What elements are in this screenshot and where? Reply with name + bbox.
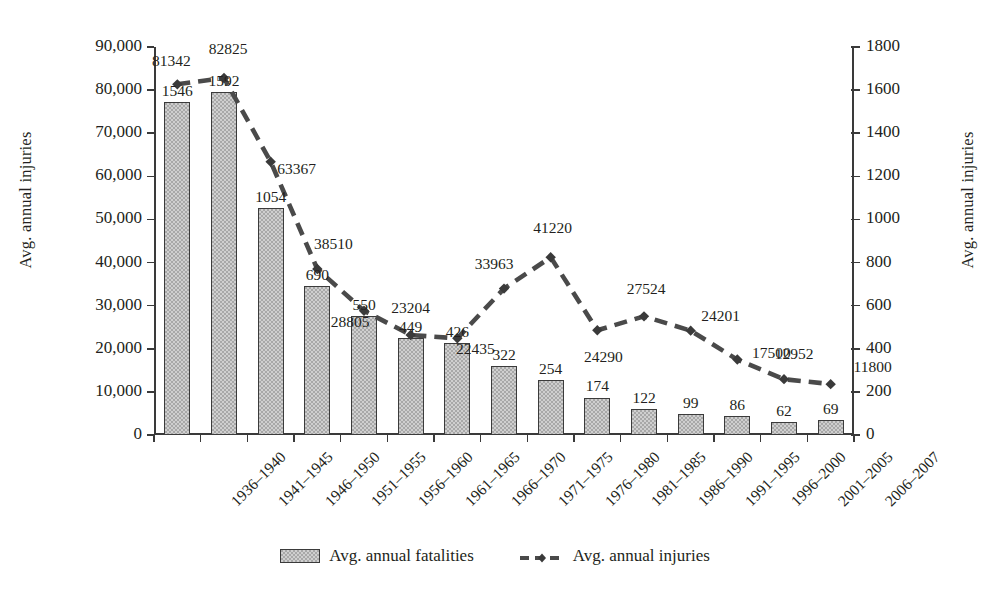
y-axis-left-tick-label: 60,000 bbox=[0, 165, 142, 185]
line-marker-icon bbox=[592, 325, 602, 335]
bar-value-label: 69 bbox=[823, 400, 839, 418]
x-axis-tick-mark bbox=[293, 435, 295, 442]
legend-line-swatch-icon bbox=[520, 550, 564, 562]
line-value-label: 63367 bbox=[277, 160, 316, 178]
line-value-label: 82825 bbox=[209, 40, 248, 58]
bar-value-label: 62 bbox=[776, 402, 792, 420]
bar-value-label: 550 bbox=[352, 296, 375, 314]
y-axis-left-tick-label: 40,000 bbox=[0, 252, 142, 272]
bar-value-label: 1546 bbox=[162, 82, 193, 100]
y-axis-left-tick-label: 90,000 bbox=[0, 36, 142, 56]
y-axis-left-tick-mark bbox=[147, 262, 154, 264]
line-value-label: 24290 bbox=[584, 348, 623, 366]
line-marker-icon bbox=[825, 379, 835, 389]
x-axis-tick-mark bbox=[853, 435, 855, 442]
legend-item-fatalities: Avg. annual fatalities bbox=[280, 546, 474, 566]
chart-figure: Avg. annual injuries Avg. annual injurie… bbox=[0, 0, 990, 591]
x-axis-tick-mark bbox=[620, 435, 622, 442]
line-value-label: 22435 bbox=[456, 340, 495, 358]
x-axis-tick-mark bbox=[153, 435, 155, 442]
y-axis-right-tick-label: 1000 bbox=[866, 208, 900, 228]
bar-value-label: 122 bbox=[632, 389, 655, 407]
y-axis-right-tick-label: 400 bbox=[866, 338, 892, 358]
y-axis-right-tick-label: 800 bbox=[866, 252, 892, 272]
legend-label-fatalities: Avg. annual fatalities bbox=[329, 546, 474, 566]
y-axis-left-tick-mark bbox=[147, 132, 154, 134]
legend-bar-swatch-icon bbox=[280, 549, 320, 563]
bar-value-label: 690 bbox=[306, 266, 329, 284]
y-axis-right-tick-label: 1800 bbox=[866, 36, 900, 56]
y-axis-left-tick-label: 10,000 bbox=[0, 381, 142, 401]
y-axis-right-tick-label: 1400 bbox=[866, 122, 900, 142]
line-value-label: 38510 bbox=[314, 235, 353, 253]
line-value-label: 11800 bbox=[854, 358, 892, 376]
line-value-label: 41220 bbox=[533, 219, 572, 237]
bar-value-label: 254 bbox=[539, 360, 562, 378]
y-axis-left-tick-mark bbox=[147, 391, 154, 393]
y-axis-left-tick-label: 30,000 bbox=[0, 295, 142, 315]
y-axis-right-tick-label: 1600 bbox=[866, 79, 900, 99]
x-axis-tick-mark bbox=[340, 435, 342, 442]
line-value-label: 23204 bbox=[391, 299, 430, 317]
bar-value-label: 322 bbox=[492, 346, 515, 364]
y-axis-right-tick-label: 0 bbox=[866, 424, 875, 444]
y-axis-left-tick-mark bbox=[147, 176, 154, 178]
line-value-label: 27524 bbox=[627, 280, 666, 298]
y-axis-left-tick-mark bbox=[147, 46, 154, 48]
x-axis-tick-mark bbox=[247, 435, 249, 442]
y-axis-right-tick-label: 1200 bbox=[866, 165, 900, 185]
line-series bbox=[154, 47, 854, 435]
bar-value-label: 426 bbox=[446, 323, 469, 341]
y-axis-left-tick-mark bbox=[147, 219, 154, 221]
bar-value-label: 86 bbox=[730, 396, 746, 414]
x-axis-tick-mark bbox=[200, 435, 202, 442]
bar-value-label: 99 bbox=[683, 394, 699, 412]
line-value-label: 12952 bbox=[775, 345, 814, 363]
y-axis-left-tick-label: 0 bbox=[0, 424, 142, 444]
y-axis-left-tick-label: 50,000 bbox=[0, 208, 142, 228]
y-axis-right-tick-label: 600 bbox=[866, 295, 892, 315]
line-value-label: 28805 bbox=[331, 313, 370, 331]
y-axis-left-tick-label: 80,000 bbox=[0, 79, 142, 99]
line-value-label: 81342 bbox=[152, 52, 191, 70]
x-axis-tick-mark bbox=[807, 435, 809, 442]
legend-label-injuries: Avg. annual injuries bbox=[573, 546, 710, 566]
y-axis-left-tick-label: 20,000 bbox=[0, 338, 142, 358]
x-axis-tick-mark bbox=[480, 435, 482, 442]
x-axis-tick-mark bbox=[527, 435, 529, 442]
y-axis-left-tick-mark bbox=[147, 89, 154, 91]
bar-value-label: 1592 bbox=[209, 72, 240, 90]
y-axis-right-tick-label: 200 bbox=[866, 381, 892, 401]
bar-value-label: 449 bbox=[399, 318, 422, 336]
y-axis-left-tick-label: 70,000 bbox=[0, 122, 142, 142]
x-axis-tick-mark bbox=[713, 435, 715, 442]
line-value-label: 33963 bbox=[475, 255, 514, 273]
plot-area: 1546159210546905504494263222541741229986… bbox=[154, 47, 854, 435]
chart-legend: Avg. annual fatalities Avg. annual injur… bbox=[0, 546, 990, 566]
bar-value-label: 174 bbox=[586, 377, 609, 395]
x-axis-tick-mark bbox=[667, 435, 669, 442]
line-marker-icon bbox=[639, 311, 649, 321]
y-axis-left-tick-mark bbox=[147, 348, 154, 350]
x-axis-tick-mark bbox=[433, 435, 435, 442]
bar-value-label: 1054 bbox=[255, 188, 286, 206]
x-axis-tick-mark bbox=[573, 435, 575, 442]
y-axis-right-title: Avg. annual injuries bbox=[958, 100, 978, 300]
legend-item-injuries: Avg. annual injuries bbox=[520, 546, 710, 566]
line-value-label: 24201 bbox=[701, 307, 740, 325]
x-axis-tick-mark bbox=[387, 435, 389, 442]
x-axis-tick-mark bbox=[760, 435, 762, 442]
y-axis-left-tick-mark bbox=[147, 305, 154, 307]
